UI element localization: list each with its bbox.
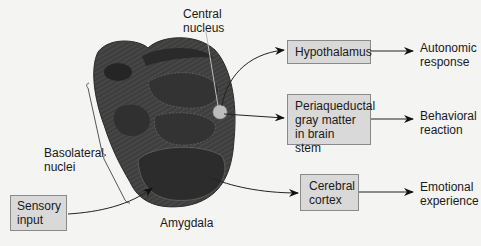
central-nucleus [213, 105, 227, 119]
amygdala-shape [94, 38, 235, 207]
cerebral-cortex-box: Cerebral cortex [300, 174, 359, 211]
amygdala-diagram [0, 0, 481, 246]
autonomic-response-label: Autonomic response [420, 41, 477, 69]
hypothalamus-box: Hypothalamus [287, 40, 371, 64]
periaqueductal-box: Periaqueductal gray matter in brain stem [287, 94, 371, 145]
sensory-input-box: Sensory input [10, 195, 67, 231]
behavioral-reaction-label: Behavioral reaction [420, 109, 477, 137]
amygdala-label: Amygdala [160, 216, 213, 230]
central-nucleus-label: Central nucleus [183, 7, 224, 35]
basolateral-nuclei-label: Basolateral nuclei [44, 146, 104, 174]
emotional-experience-label: Emotional experience [420, 180, 479, 208]
